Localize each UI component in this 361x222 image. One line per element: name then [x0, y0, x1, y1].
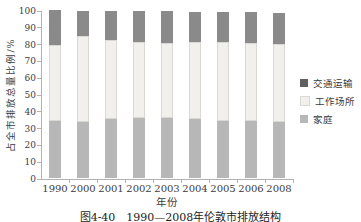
bar-segment-工作场所 — [133, 42, 145, 118]
bar-segment-工作场所 — [77, 36, 89, 122]
y-tick-mark — [37, 11, 41, 12]
y-tick-mark — [37, 95, 41, 96]
legend-swatch-工作场所 — [300, 96, 310, 106]
bar-segment-工作场所 — [189, 42, 201, 119]
bar-segment-工作场所 — [105, 40, 117, 119]
y-tick-mark — [37, 128, 41, 129]
stacked-bar — [217, 10, 229, 178]
x-tick-label: 2002 — [125, 183, 153, 194]
stacked-bar — [133, 10, 145, 178]
legend-swatch-交通运输 — [300, 79, 308, 87]
x-axis-title: 年份 — [109, 194, 225, 209]
bar-segment-家庭 — [133, 118, 145, 178]
bar-segment-家庭 — [189, 119, 201, 178]
bar-segment-工作场所 — [273, 44, 285, 121]
bar-segment-交通运输 — [133, 11, 145, 42]
y-tick-label: 90 — [6, 23, 36, 33]
y-tick-mark — [37, 78, 41, 79]
bar-segment-家庭 — [77, 122, 89, 178]
stacked-bar — [105, 10, 117, 178]
bar-segment-交通运输 — [105, 11, 117, 40]
legend-item: 家庭 — [300, 113, 355, 125]
bar-segment-交通运输 — [273, 13, 285, 45]
stacked-bar — [245, 10, 257, 178]
bar-segment-交通运输 — [77, 11, 89, 36]
x-tick-label: 2003 — [153, 183, 181, 194]
y-tick-label: 10 — [6, 157, 36, 167]
x-tick-label: 1990 — [41, 183, 69, 194]
x-tick-label: 2006 — [237, 183, 265, 194]
x-tick-label: 2001 — [97, 183, 125, 194]
x-tick-label: 2008 — [265, 183, 293, 194]
y-tick-label: 0 — [6, 174, 36, 184]
bar-segment-工作场所 — [245, 43, 257, 121]
legend-label: 交通运输 — [313, 76, 353, 90]
y-tick-mark — [37, 162, 41, 163]
y-axis-line — [41, 11, 42, 179]
legend-swatch-家庭 — [300, 115, 308, 123]
y-tick-label: 70 — [6, 56, 36, 66]
x-tick-label: 2000 — [69, 183, 97, 194]
stacked-bar — [189, 10, 201, 178]
bar-segment-交通运输 — [217, 12, 229, 42]
chart-figure: 占全市排放总量比例/% 0102030405060708090100199020… — [0, 0, 361, 222]
y-tick-label: 50 — [6, 90, 36, 100]
legend-label: 家庭 — [313, 112, 333, 126]
stacked-bar — [49, 10, 61, 178]
bar-segment-家庭 — [245, 121, 257, 178]
y-tick-label: 100 — [6, 6, 36, 16]
x-tick-label: 2004 — [181, 183, 209, 194]
bar-segment-工作场所 — [161, 43, 173, 119]
y-tick-mark — [37, 111, 41, 112]
y-tick-label: 40 — [6, 107, 36, 117]
stacked-bar — [161, 10, 173, 178]
bar-segment-工作场所 — [217, 42, 229, 121]
stacked-bar — [273, 10, 285, 178]
x-axis-line — [41, 179, 294, 180]
bar-segment-交通运输 — [189, 12, 201, 42]
y-tick-mark — [37, 179, 41, 180]
plot-area: 0102030405060708090100199020002001200220… — [41, 11, 293, 179]
bar-segment-家庭 — [273, 122, 285, 178]
bar-segment-家庭 — [49, 121, 61, 178]
bar-segment-工作场所 — [49, 45, 61, 121]
legend-label: 工作场所 — [315, 94, 355, 108]
y-tick-label: 30 — [6, 124, 36, 134]
bar-segment-交通运输 — [245, 12, 257, 42]
legend-item: 工作场所 — [300, 95, 355, 107]
y-tick-mark — [37, 44, 41, 45]
legend: 交通运输工作场所家庭 — [300, 77, 355, 131]
y-tick-label: 80 — [6, 40, 36, 50]
y-tick-label: 20 — [6, 140, 36, 150]
bar-segment-家庭 — [105, 119, 117, 178]
y-tick-mark — [37, 27, 41, 28]
figure-caption: 图4-40 1990—2008年伦敦市排放结构 — [0, 211, 361, 222]
y-tick-mark — [37, 61, 41, 62]
y-tick-mark — [37, 145, 41, 146]
bar-segment-家庭 — [161, 118, 173, 178]
x-tick-label: 2005 — [209, 183, 237, 194]
legend-item: 交通运输 — [300, 77, 355, 89]
bar-segment-交通运输 — [161, 11, 173, 42]
y-tick-label: 60 — [6, 73, 36, 83]
bar-segment-家庭 — [217, 121, 229, 178]
stacked-bar — [77, 10, 89, 178]
bar-segment-交通运输 — [49, 10, 61, 45]
